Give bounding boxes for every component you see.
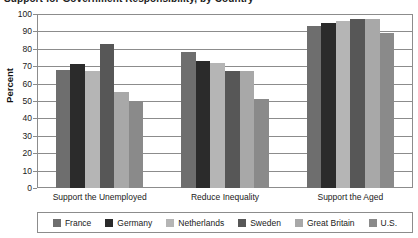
y-tick-label: 60 [6, 79, 32, 88]
chart-title-strip: Support for Government Responsibility, b… [0, 0, 418, 9]
bar [240, 71, 255, 188]
legend-swatch-icon [105, 219, 113, 227]
y-tick-label: 0 [6, 184, 32, 193]
y-tick-label: 30 [6, 132, 32, 141]
bar [56, 70, 71, 188]
x-axis-category-label: Reduce Inequality [191, 192, 259, 202]
page-title: Support for Government Responsibility, b… [4, 0, 254, 4]
legend-item[interactable]: Germany [105, 218, 152, 228]
legend-label: Germany [117, 218, 152, 228]
legend-item[interactable]: Netherlands [166, 218, 224, 228]
bar [85, 71, 100, 188]
y-tick-label: 90 [6, 27, 32, 36]
y-tick-label: 50 [6, 97, 32, 106]
y-tick-label: 40 [6, 114, 32, 123]
y-tick-label: 20 [6, 149, 32, 158]
legend-swatch-icon [295, 219, 303, 227]
bar [225, 71, 240, 188]
bar-chart: Support for Government Responsibility, b… [0, 0, 418, 238]
legend-label: U.S. [381, 218, 398, 228]
legend-swatch-icon [238, 219, 246, 227]
chart-legend: FranceGermanyNetherlandsSwedenGreat Brit… [37, 212, 413, 233]
bars-layer [37, 14, 413, 188]
bar [181, 52, 196, 188]
legend-item[interactable]: U.S. [369, 218, 398, 228]
bar [380, 33, 395, 188]
y-tick-label: 100 [6, 10, 32, 19]
x-axis-category-label: Support the Aged [317, 192, 383, 202]
y-tick-label: 10 [6, 166, 32, 175]
legend-label: Great Britain [307, 218, 355, 228]
bar [70, 64, 85, 188]
bar [210, 63, 225, 188]
bar [129, 101, 144, 188]
legend-swatch-icon [166, 219, 174, 227]
legend-swatch-icon [53, 219, 61, 227]
bar [254, 99, 269, 188]
plot-area: 0102030405060708090100 [37, 14, 413, 188]
bar [114, 92, 129, 188]
bar [336, 21, 351, 188]
legend-label: Sweden [250, 218, 281, 228]
legend-item[interactable]: Great Britain [295, 218, 355, 228]
y-tick-label: 70 [6, 62, 32, 71]
legend-item[interactable]: Sweden [238, 218, 281, 228]
legend-swatch-icon [369, 219, 377, 227]
bar [196, 61, 211, 188]
bar [321, 23, 336, 188]
y-tick-label: 80 [6, 45, 32, 54]
legend-label: Netherlands [178, 218, 224, 228]
legend-label: France [65, 218, 91, 228]
y-tick-mark [33, 188, 37, 189]
legend-item[interactable]: France [53, 218, 91, 228]
bar [307, 26, 322, 188]
x-axis-category-label: Support the Unemployed [53, 192, 147, 202]
bar [100, 44, 115, 188]
bar [350, 19, 365, 188]
bar [365, 19, 380, 188]
